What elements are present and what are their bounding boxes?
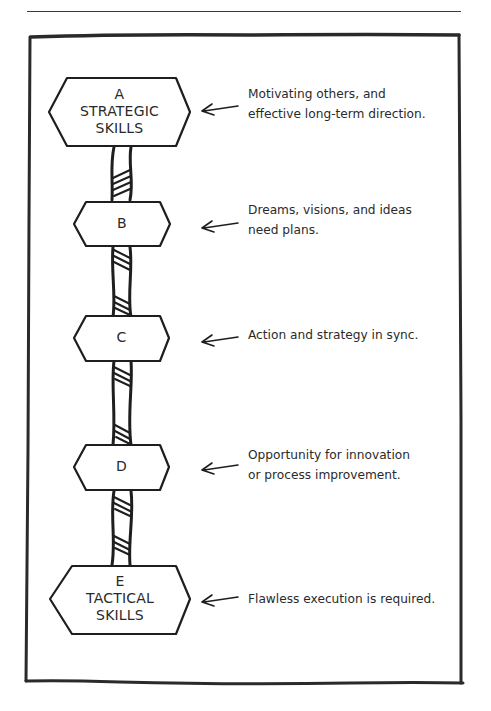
pointer-arrows (202, 104, 238, 606)
description-line: Action and strategy in sync. (248, 325, 418, 345)
node-a-label: A STRATEGIC SKILLS (49, 86, 190, 137)
description-line: need plans. (248, 220, 412, 240)
node-e-description: Flawless execution is required. (248, 589, 435, 609)
node-d-label: D (74, 458, 169, 475)
node-d-letter: D (74, 458, 169, 475)
node-c-letter: C (74, 329, 169, 346)
arrow-icon-d (202, 463, 238, 474)
description-line: Motivating others, and (248, 84, 426, 104)
node-e-title-line1: TACTICAL (50, 590, 190, 607)
arrow-icon-b (202, 221, 238, 232)
node-b-label: B (74, 215, 170, 232)
description-line: effective long-term direction. (248, 104, 426, 124)
node-b-description: Dreams, visions, and ideas need plans. (248, 200, 412, 240)
description-line: Dreams, visions, and ideas (248, 200, 412, 220)
node-d-description: Opportunity for innovation or process im… (248, 445, 410, 485)
node-a-description: Motivating others, and effective long-te… (248, 84, 426, 124)
node-a-letter: A (49, 86, 190, 103)
node-e-title-line2: SKILLS (50, 607, 190, 624)
arrow-icon-c (202, 335, 238, 346)
node-c-description: Action and strategy in sync. (248, 325, 418, 345)
node-a-title-line2: SKILLS (49, 120, 190, 137)
node-b-letter: B (74, 215, 170, 232)
arrow-icon-e (202, 595, 238, 606)
node-e-label: E TACTICAL SKILLS (50, 573, 190, 624)
node-a-title-line1: STRATEGIC (49, 103, 190, 120)
description-line: Flawless execution is required. (248, 589, 435, 609)
node-c-label: C (74, 329, 169, 346)
arrow-icon-a (202, 104, 238, 115)
node-e-letter: E (50, 573, 190, 590)
description-line: Opportunity for innovation (248, 445, 410, 465)
description-line: or process improvement. (248, 465, 410, 485)
